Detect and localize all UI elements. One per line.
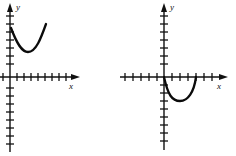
right-x-axis-label: x	[216, 81, 221, 91]
left-y-axis-label: y	[15, 2, 20, 12]
figure-root: x y	[0, 0, 236, 156]
right-y-axis-label: y	[169, 2, 174, 12]
graph-panel-right: x y	[118, 0, 236, 156]
right-x-axis-arrowhead	[219, 74, 228, 80]
left-x-axis-arrowhead	[71, 74, 80, 80]
left-y-axis-arrowhead	[7, 3, 13, 12]
right-y-axis-arrowhead	[161, 3, 167, 12]
left-x-axis	[0, 74, 80, 80]
graph-right-svg: x y	[118, 0, 236, 156]
graph-left-svg: x y	[0, 0, 100, 156]
left-x-axis-label: x	[68, 81, 73, 91]
graph-panel-left: x y	[0, 0, 100, 156]
left-parabola-curve	[11, 24, 46, 52]
